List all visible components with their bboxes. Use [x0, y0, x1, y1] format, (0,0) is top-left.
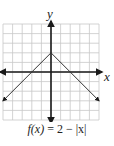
function-graph: y x	[0, 0, 114, 122]
axes	[0, 21, 102, 122]
caption-function-name: f(x)	[28, 122, 45, 136]
y-axis-label: y	[45, 6, 53, 21]
function-caption: f(x) = 2 − |x|	[0, 122, 114, 137]
x-axis-label: x	[103, 69, 110, 84]
caption-expression: = 2 − |x|	[44, 122, 86, 136]
